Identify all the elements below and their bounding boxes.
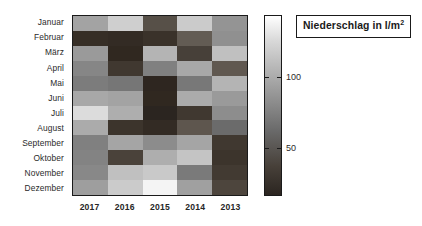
heatmap-cell: [108, 31, 143, 46]
heatmap-cell: [212, 76, 247, 91]
heatmap-cell: [143, 120, 178, 135]
y-axis-tick-juni: Juni: [0, 90, 68, 105]
heatmap-cell: [108, 16, 143, 31]
colorbar-gradient: [264, 15, 282, 196]
heatmap-cell: [73, 180, 108, 195]
x-axis-tick-2014: 2014: [178, 199, 213, 215]
y-axis-tick-april: April: [0, 60, 68, 75]
y-axis-tick-juli: Juli: [0, 105, 68, 120]
y-axis-tick-september: September: [0, 136, 68, 151]
heatmap-cell: [177, 180, 212, 195]
heatmap-cell: [212, 120, 247, 135]
heatmap-cell: [212, 31, 247, 46]
chart-title-text: Niederschlag in l/m2: [303, 21, 404, 31]
heatmap-cell: [143, 106, 178, 121]
heatmap-cell: [212, 16, 247, 31]
heatmap-cell: [108, 76, 143, 91]
y-axis-tick-dezember: Dezember: [0, 181, 68, 196]
heatmap-cell: [177, 150, 212, 165]
colorbar-tick-upper-left: [264, 77, 269, 78]
heatmap-cell: [108, 120, 143, 135]
heatmap-cell: [108, 46, 143, 61]
y-axis-tick-oktober: Oktober: [0, 151, 68, 166]
heatmap-row: [73, 16, 247, 31]
heatmap-cell: [212, 165, 247, 180]
colorbar: 100 50: [264, 15, 282, 196]
heatmap-cell: [108, 150, 143, 165]
x-axis-tick-2015: 2015: [142, 199, 177, 215]
y-axis-tick-maerz: März: [0, 45, 68, 60]
colorbar-label-50: 50: [286, 144, 296, 153]
y-axis-tick-august: August: [0, 121, 68, 136]
heatmap-cell: [143, 165, 178, 180]
heatmap-cell: [108, 91, 143, 106]
heatmap-row: [73, 31, 247, 46]
y-axis-tick-februar: Februar: [0, 30, 68, 45]
heatmap-row: [73, 135, 247, 150]
heatmap-row: [73, 150, 247, 165]
heatmap-cell: [108, 106, 143, 121]
heatmap-cell: [73, 16, 108, 31]
heatmap-cell: [143, 135, 178, 150]
heatmap-cell: [212, 106, 247, 121]
heatmap-cell: [73, 120, 108, 135]
heatmap-cell: [73, 76, 108, 91]
heatmap-cell: [177, 76, 212, 91]
heatmap-row: [73, 46, 247, 61]
heatmap-plot-area: [72, 15, 248, 196]
heatmap-row: [73, 180, 247, 195]
x-axis-tick-2013: 2013: [213, 199, 248, 215]
heatmap-cell: [212, 135, 247, 150]
x-axis-tick-2017: 2017: [72, 199, 107, 215]
heatmap-cell: [143, 150, 178, 165]
heatmap-cell: [73, 106, 108, 121]
y-axis-tick-november: November: [0, 166, 68, 181]
heatmap-cell: [177, 91, 212, 106]
heatmap-row: [73, 106, 247, 121]
x-axis-labels: 2017 2016 2015 2014 2013: [72, 199, 248, 215]
heatmap-cell: [177, 31, 212, 46]
heatmap-cell: [177, 16, 212, 31]
colorbar-label-100: 100: [286, 73, 301, 82]
heatmap-cell: [177, 120, 212, 135]
x-axis-tick-2016: 2016: [107, 199, 142, 215]
heatmap-cell: [143, 76, 178, 91]
heatmap-cell: [143, 16, 178, 31]
heatmap-cell: [108, 165, 143, 180]
heatmap-cell: [73, 165, 108, 180]
heatmap-cell: [73, 91, 108, 106]
heatmap-cell: [212, 150, 247, 165]
colorbar-tick-lower-left: [264, 148, 269, 149]
chart-title-box: Niederschlag in l/m2: [296, 15, 411, 38]
y-axis-tick-januar: Januar: [0, 15, 68, 30]
precipitation-heatmap-figure: Januar Februar März April Mai Juni Juli …: [0, 0, 422, 226]
heatmap-cell: [108, 135, 143, 150]
heatmap-row: [73, 76, 247, 91]
heatmap-cell: [73, 150, 108, 165]
heatmap-cell: [143, 91, 178, 106]
y-axis-tick-mai: Mai: [0, 75, 68, 90]
heatmap-cell: [177, 106, 212, 121]
heatmap-cell: [212, 180, 247, 195]
heatmap-cell: [143, 180, 178, 195]
heatmap-cell: [177, 135, 212, 150]
heatmap-cell: [73, 135, 108, 150]
heatmap-row: [73, 61, 247, 76]
y-axis-labels: Januar Februar März April Mai Juni Juli …: [0, 15, 68, 196]
heatmap-row: [73, 120, 247, 135]
heatmap-cell: [108, 61, 143, 76]
heatmap-cell: [143, 61, 178, 76]
heatmap-cell: [73, 61, 108, 76]
heatmap-cell: [143, 31, 178, 46]
heatmap-cell: [108, 180, 143, 195]
heatmap-row: [73, 165, 247, 180]
colorbar-tick-lower-right: [277, 148, 282, 149]
colorbar-tick-upper-right: [277, 77, 282, 78]
chart-title-superscript: 2: [400, 19, 404, 26]
heatmap-cell: [73, 31, 108, 46]
heatmap-cell: [212, 46, 247, 61]
heatmap-cell: [177, 46, 212, 61]
heatmap-cell: [143, 46, 178, 61]
heatmap-cell: [177, 61, 212, 76]
heatmap-cell: [177, 165, 212, 180]
